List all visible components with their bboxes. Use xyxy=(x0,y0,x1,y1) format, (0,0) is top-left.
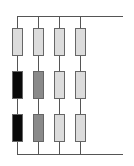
resistor-cell xyxy=(12,28,23,56)
resistor-cell xyxy=(54,114,65,142)
resistor-cell xyxy=(75,28,86,56)
resistor-cell xyxy=(75,71,86,99)
bottom-rail xyxy=(17,154,123,155)
resistor-cell xyxy=(12,114,23,142)
resistor-cell xyxy=(33,114,44,142)
resistor-cell xyxy=(54,28,65,56)
resistor-cell xyxy=(54,71,65,99)
top-rail xyxy=(17,16,123,17)
resistor-cell xyxy=(33,71,44,99)
resistor-cell xyxy=(75,114,86,142)
resistor-cell xyxy=(33,28,44,56)
resistor-cell xyxy=(12,71,23,99)
